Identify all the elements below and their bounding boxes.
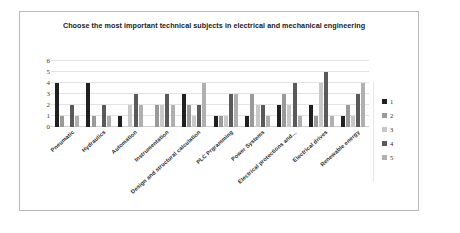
bar: [155, 105, 159, 127]
bar-group: [210, 61, 242, 127]
bar: [214, 116, 218, 127]
bar-group: [337, 61, 369, 127]
y-tick-label: 1: [47, 113, 51, 120]
bar: [229, 94, 233, 127]
bar: [234, 94, 238, 127]
bar: [309, 105, 313, 127]
bar: [75, 116, 79, 127]
bar: [171, 105, 175, 127]
legend-swatch-icon: [382, 99, 387, 104]
legend-item[interactable]: 5: [382, 150, 414, 164]
x-axis-label: Hydraulics: [81, 129, 107, 153]
bar: [314, 116, 318, 127]
bar: [92, 116, 96, 127]
bar: [202, 83, 206, 127]
y-axis: 6543210: [42, 56, 51, 132]
bar: [250, 94, 254, 127]
bar: [261, 105, 265, 127]
bar: [346, 105, 350, 127]
bar: [128, 105, 132, 127]
bar-group: [242, 61, 274, 127]
bar: [287, 105, 291, 127]
bar: [293, 83, 297, 127]
legend-item[interactable]: 3: [382, 122, 414, 136]
plot-area: [51, 61, 369, 127]
legend-swatch-icon: [382, 113, 387, 118]
bar: [330, 116, 334, 127]
chart-legend: 12345: [382, 94, 414, 164]
bar: [298, 116, 302, 127]
chart-figure: Choose the most important technical subj…: [19, 11, 419, 211]
legend-swatch-icon: [382, 127, 387, 132]
bar: [60, 116, 64, 127]
bar: [55, 83, 59, 127]
y-tick-label: 5: [47, 69, 51, 76]
legend-divider: [373, 82, 374, 182]
y-tick-label: 3: [47, 91, 51, 98]
bar: [134, 94, 138, 127]
bar: [277, 105, 281, 127]
legend-label: 2: [390, 112, 393, 119]
x-axis-label: Power Systems: [230, 129, 266, 162]
bar: [324, 72, 328, 127]
legend-swatch-icon: [382, 155, 387, 160]
bar-group: [146, 61, 178, 127]
bar: [256, 105, 260, 127]
legend-label: 1: [390, 98, 393, 105]
bar: [165, 94, 169, 127]
bar: [107, 116, 111, 127]
bar: [282, 94, 286, 127]
legend-item[interactable]: 1: [382, 94, 414, 108]
legend-label: 5: [390, 154, 393, 161]
legend-item[interactable]: 2: [382, 108, 414, 122]
bar-group: [83, 61, 115, 127]
x-axis-label: Electrical protections and…: [236, 129, 297, 185]
legend-item[interactable]: 4: [382, 136, 414, 150]
bar: [70, 105, 74, 127]
x-axis-label: Design and structural calculation: [130, 129, 202, 195]
legend-label: 3: [390, 126, 393, 133]
bar: [192, 116, 196, 127]
bar: [182, 94, 186, 127]
bar: [219, 116, 223, 127]
bar: [341, 116, 345, 127]
bar-group: [305, 61, 337, 127]
legend-swatch-icon: [382, 141, 387, 146]
bar: [197, 105, 201, 127]
y-tick-label: 2: [47, 102, 51, 109]
bar: [224, 116, 228, 127]
bar: [118, 116, 122, 127]
bar: [102, 105, 106, 127]
bar: [86, 83, 90, 127]
bar-group: [178, 61, 210, 127]
bar: [351, 116, 355, 127]
y-tick-label: 0: [47, 124, 51, 131]
bar-groups: [51, 61, 369, 127]
x-axis-label: Pneumatic: [49, 129, 75, 153]
x-axis-label: Automation: [110, 129, 138, 155]
x-axis-labels: PneumaticHydraulicsAutomationInstrumenta…: [51, 129, 369, 209]
legend-label: 4: [390, 140, 393, 147]
y-tick-label: 6: [47, 58, 51, 65]
bar: [160, 105, 164, 127]
y-tick-label: 4: [47, 80, 51, 87]
bar: [356, 94, 360, 127]
bar: [361, 83, 365, 127]
bar-group: [115, 61, 147, 127]
bar: [245, 116, 249, 127]
bar: [139, 105, 143, 127]
chart-title: Choose the most important technical subj…: [54, 21, 374, 31]
bar-group: [51, 61, 83, 127]
bar: [266, 116, 270, 127]
bar-group: [274, 61, 306, 127]
bar: [319, 83, 323, 127]
bar: [187, 105, 191, 127]
